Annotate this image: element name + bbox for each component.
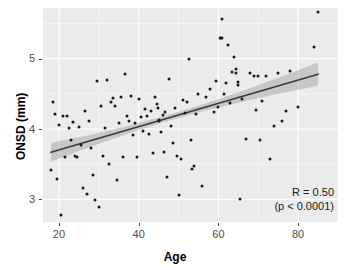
data-point	[159, 130, 162, 133]
data-point	[161, 114, 164, 117]
data-point	[195, 112, 198, 115]
data-point	[121, 156, 124, 159]
data-point	[83, 110, 86, 113]
data-point	[151, 152, 154, 155]
data-point	[99, 104, 102, 107]
data-point	[220, 36, 223, 39]
data-point	[201, 185, 204, 188]
x-axis-label: Age	[0, 250, 350, 264]
data-point	[313, 45, 316, 48]
data-point	[217, 105, 220, 108]
data-point	[63, 155, 66, 158]
x-tick-mark	[298, 223, 299, 226]
data-point	[141, 130, 144, 133]
y-tick-mark	[39, 59, 42, 60]
data-point	[191, 168, 194, 171]
data-point	[239, 198, 242, 201]
data-point	[115, 179, 118, 182]
data-point	[253, 74, 256, 77]
data-point	[185, 101, 188, 104]
data-point	[197, 92, 200, 95]
data-point	[163, 111, 166, 114]
data-point	[53, 112, 56, 115]
correlation-annotation: R = 0.50	[292, 186, 334, 199]
data-point	[231, 71, 234, 74]
scatter-plot-figure: 345 20406080 ONSD (mm) Age R = 0.50 (p <…	[0, 0, 350, 270]
data-point	[187, 58, 190, 61]
data-point	[93, 199, 96, 202]
data-point	[79, 143, 82, 146]
data-point	[65, 115, 68, 118]
data-point	[234, 67, 237, 70]
data-point	[133, 122, 136, 125]
data-point	[169, 125, 172, 128]
data-point	[49, 168, 52, 171]
y-axis-label: ONSD (mm)	[14, 93, 28, 160]
data-point	[269, 157, 272, 160]
data-point	[277, 72, 280, 75]
data-point	[205, 95, 208, 98]
data-point	[69, 138, 72, 141]
data-point	[57, 123, 60, 126]
data-point	[229, 102, 232, 105]
data-point	[255, 109, 258, 112]
data-point	[59, 213, 62, 216]
data-point	[55, 178, 58, 181]
data-point	[223, 92, 226, 95]
y-tick-mark	[39, 129, 42, 130]
data-point	[103, 127, 106, 130]
data-point	[111, 97, 114, 100]
pvalue-annotation: (p < 0.0001)	[274, 200, 334, 213]
data-point	[85, 192, 88, 195]
data-point	[317, 11, 320, 14]
y-tick-mark	[39, 199, 42, 200]
data-point	[105, 78, 108, 81]
data-point	[257, 74, 260, 77]
data-point	[127, 120, 130, 123]
data-point	[236, 84, 239, 87]
data-point	[297, 106, 300, 109]
data-point	[97, 205, 100, 208]
data-point	[165, 175, 168, 178]
data-point	[107, 163, 110, 166]
data-point	[77, 125, 80, 128]
x-tick-mark	[59, 223, 60, 226]
data-point	[245, 137, 248, 140]
y-tick-label: 5	[9, 53, 35, 64]
data-point	[265, 74, 268, 77]
data-point	[175, 154, 178, 157]
data-point	[241, 97, 244, 100]
data-point	[156, 106, 159, 109]
data-point	[193, 165, 196, 168]
x-tick-label: 20	[39, 229, 79, 240]
data-point	[289, 70, 292, 73]
data-point	[227, 44, 230, 47]
x-tick-label: 80	[278, 229, 318, 240]
data-point	[51, 101, 54, 104]
data-point	[81, 186, 84, 189]
data-point	[249, 71, 252, 74]
y-tick-label: 3	[9, 194, 35, 205]
data-point	[67, 126, 70, 129]
data-point	[209, 87, 212, 90]
x-tick-mark	[139, 223, 140, 226]
data-point	[135, 156, 138, 159]
x-tick-label: 40	[119, 229, 159, 240]
data-point	[237, 80, 240, 83]
data-point	[137, 97, 140, 100]
data-point	[221, 18, 224, 21]
data-point	[149, 109, 152, 112]
data-point	[179, 158, 182, 161]
data-point	[158, 118, 161, 121]
x-tick-label: 60	[198, 229, 238, 240]
data-point	[215, 79, 218, 82]
data-point	[113, 104, 116, 107]
data-point	[109, 101, 112, 104]
data-point	[235, 71, 238, 74]
data-point	[119, 95, 122, 98]
data-point	[101, 154, 104, 157]
data-point	[153, 95, 156, 98]
data-point	[147, 133, 150, 136]
data-point	[181, 99, 184, 102]
data-point	[167, 78, 170, 81]
